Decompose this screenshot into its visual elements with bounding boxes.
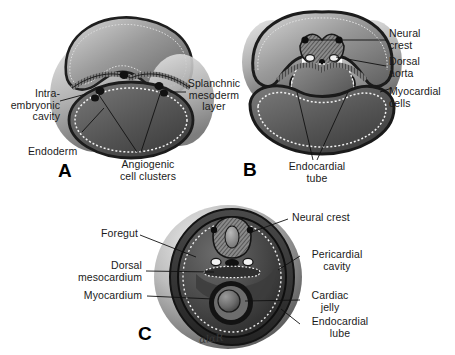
neural-crest-cell	[211, 227, 217, 233]
panel-c-illustration	[140, 205, 302, 349]
label-dorsal-mesocardium: Dorsal mesocardium	[56, 260, 142, 283]
panel-letter-a: A	[58, 160, 72, 182]
label-endocardial-tube-b: Endocardial tube	[268, 161, 366, 184]
label-myocardium: Myocardium	[58, 290, 142, 302]
label-myocardial-cells: Myocardial cells	[389, 86, 441, 109]
dorsal-aorta	[243, 258, 253, 265]
dorsal-aorta	[306, 55, 315, 62]
label-foregut: Foregut	[78, 228, 138, 240]
dorsal-aorta	[330, 55, 339, 62]
label-splanchnic-mesoderm-layer: Splanchnic mesoderm layer	[178, 78, 250, 113]
angiogenic-cluster	[91, 95, 99, 102]
label-pericardial-cavity: Pericardial cavity	[302, 249, 372, 272]
label-intraembryonic-cavity: Intra- embryonic cavity	[2, 88, 60, 123]
panel-letter-c: C	[138, 323, 152, 345]
endocardial-tube	[218, 290, 240, 312]
angiogenic-cluster	[120, 71, 129, 79]
label-endocardial-tube-c: Endocardial lube	[302, 316, 378, 339]
angiogenic-cluster	[155, 82, 164, 90]
label-neural-crest-b: Neural crest	[389, 28, 421, 51]
label-endoderm: Endoderm	[28, 146, 77, 158]
panel-letter-b: B	[243, 159, 257, 181]
label-neural-crest-c: Neural crest	[292, 212, 350, 224]
label-dorsal-aorta: Dorsal aorta	[389, 56, 420, 79]
angiogenic-cluster	[96, 87, 105, 95]
panel-b-illustration	[242, 12, 402, 160]
angiogenic-cluster	[160, 90, 168, 97]
dorsal-aorta	[211, 258, 221, 265]
label-angiogenic-cell-clusters: Angiogenic cell clusters	[96, 159, 200, 182]
label-cardiac-jelly: Cardiac jelly	[302, 290, 358, 313]
